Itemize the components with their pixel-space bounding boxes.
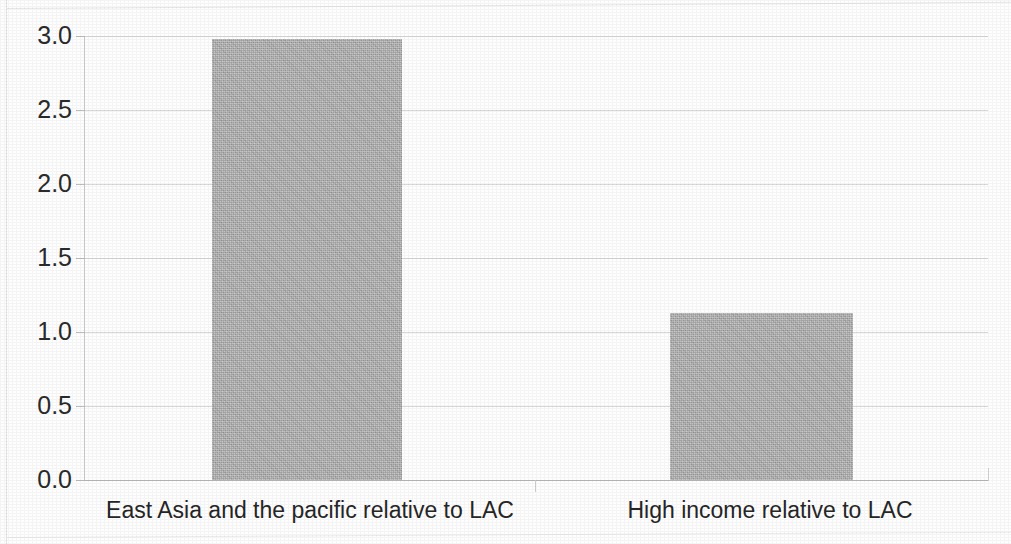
x-axis-end-tick: [988, 468, 989, 481]
y-tick-label-1-0: 1.0: [10, 317, 72, 346]
plot-area: [84, 36, 988, 480]
y-tick-mark-1-5: [76, 258, 85, 259]
y-tick-label-1-5: 1.5: [10, 243, 72, 272]
bar-chart-figure: 3.0 2.5 2.0 1.5 1.0 0.5 0.0 East Asia an…: [0, 0, 1011, 544]
page-border-bottom: [6, 532, 1011, 538]
y-tick-label-2-5: 2.5: [10, 95, 72, 124]
y-axis-tick-labels: 3.0 2.5 2.0 1.5 1.0 0.5 0.0: [0, 0, 72, 544]
y-tick-label-0-0: 0.0: [10, 465, 72, 494]
y-tick-mark-2-0: [76, 184, 85, 185]
y-tick-mark-1-0: [76, 332, 85, 333]
y-tick-label-3-0: 3.0: [10, 21, 72, 50]
y-tick-mark-0-5: [76, 406, 85, 407]
bar-east-asia-pacific: [212, 39, 402, 480]
x-axis-category-divider-tick: [535, 480, 536, 492]
y-tick-mark-3-0: [76, 36, 85, 37]
y-tick-mark-2-5: [76, 110, 85, 111]
axis-baseline: [84, 480, 988, 481]
bar-high-income: [670, 313, 853, 480]
y-tick-label-2-0: 2.0: [10, 169, 72, 198]
page-border-top: [6, 2, 1011, 9]
y-tick-mark-0-0: [76, 480, 85, 481]
gridline-3-0: [84, 36, 988, 37]
y-tick-label-0-5: 0.5: [10, 391, 72, 420]
x-axis-label-high-income: High income relative to LAC: [570, 497, 970, 524]
x-axis-label-east-asia-pacific: East Asia and the pacific relative to LA…: [100, 497, 520, 524]
